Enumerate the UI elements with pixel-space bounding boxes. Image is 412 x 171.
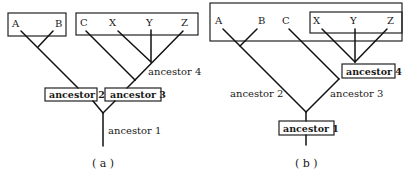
edge-c bbox=[289, 29, 339, 79]
leaf-x: X bbox=[109, 17, 117, 28]
ancestor-3-label: ancestor 3 bbox=[330, 88, 383, 99]
leaf-c: C bbox=[282, 15, 290, 26]
leaf-x: X bbox=[313, 15, 321, 26]
edge-anc2-anc1 bbox=[93, 101, 103, 113]
leaf-a: A bbox=[11, 18, 20, 29]
phylogeny-diagram: A B C X Y Z ancestor 4 ancestor 2 ancest… bbox=[0, 0, 412, 171]
outer-group-box bbox=[210, 3, 402, 41]
leaf-c: C bbox=[80, 17, 88, 28]
group-box-cxyz bbox=[76, 13, 198, 35]
edge-x bbox=[118, 31, 151, 62]
ancestor-3-label: ancestor 3 bbox=[110, 89, 166, 100]
leaf-y: Y bbox=[145, 17, 153, 28]
edge-z bbox=[355, 29, 387, 62]
ancestor-4-label: ancestor 4 bbox=[346, 66, 402, 77]
leaf-a: A bbox=[214, 15, 223, 26]
edge-b bbox=[240, 29, 257, 46]
edge-anc3-stub bbox=[127, 80, 135, 88]
panel-b: A B C X Y Z ancestor 4 ancestor 2 ancest… bbox=[210, 3, 402, 170]
caption-a: ( a ) bbox=[92, 157, 114, 170]
ancestor-2-label: ancestor 2 bbox=[230, 88, 283, 99]
edge-b bbox=[38, 31, 53, 47]
edge-a bbox=[21, 31, 78, 88]
ancestor-1-label: ancestor 1 bbox=[283, 123, 339, 134]
ancestor-1-label: ancestor 1 bbox=[108, 125, 161, 136]
edge-c bbox=[86, 31, 135, 80]
leaf-z: Z bbox=[181, 17, 188, 28]
ancestor-2-label: ancestor 2 bbox=[49, 89, 105, 100]
ancestor-4-label: ancestor 4 bbox=[148, 66, 201, 77]
panel-a: A B C X Y Z ancestor 4 ancestor 2 ancest… bbox=[8, 13, 201, 170]
edge-x bbox=[322, 29, 355, 62]
leaf-z: Z bbox=[387, 15, 394, 26]
leaf-b: B bbox=[258, 15, 265, 26]
caption-b: ( b ) bbox=[295, 157, 318, 170]
leaf-y: Y bbox=[349, 15, 357, 26]
edge-anc3-anc1 bbox=[103, 101, 115, 113]
leaf-b: B bbox=[55, 18, 62, 29]
